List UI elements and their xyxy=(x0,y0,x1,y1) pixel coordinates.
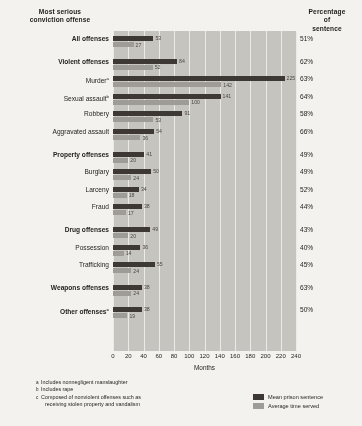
x-axis-tick: 180 xyxy=(245,353,255,359)
bar-row: 5524 xyxy=(113,262,296,275)
category-label-text: Weapons offenses xyxy=(51,284,109,291)
category-label: Trafficking xyxy=(4,261,109,268)
bar-value-label: 41 xyxy=(146,152,152,157)
bar-value-label: 24 xyxy=(133,291,139,296)
category-label-text: Trafficking xyxy=(79,261,109,268)
bar-row: 5327 xyxy=(113,36,296,49)
footnote-text-continued: receiving stolen property and vandalism xyxy=(36,401,231,408)
category-label: Possession xyxy=(4,244,109,251)
percentage-value: 66% xyxy=(300,128,340,135)
bar-value-label: 84 xyxy=(179,59,185,64)
footnote-marker: a xyxy=(36,379,39,386)
bar-average-time-served xyxy=(113,268,131,273)
bar-mean-prison-sentence xyxy=(113,187,139,192)
category-label-text: Robbery xyxy=(84,110,109,117)
legend-item: Average time served xyxy=(253,402,358,411)
footnotes: aIncludes nonnegligent manslaughterbIncl… xyxy=(36,379,231,409)
x-axis-tick: 100 xyxy=(184,353,194,359)
bar-mean-prison-sentence xyxy=(113,169,151,174)
bar-row: 4920 xyxy=(113,227,296,240)
legend-item: Mean prison sentence xyxy=(253,393,358,402)
bar-value-label: 14 xyxy=(126,251,132,256)
gridline xyxy=(296,31,297,351)
bar-row: 3817 xyxy=(113,204,296,217)
category-label-text: Aggravated assault xyxy=(53,128,109,135)
bar-value-label: 24 xyxy=(133,176,139,181)
bar-mean-prison-sentence xyxy=(113,36,153,41)
bar-row: 9153 xyxy=(113,111,296,124)
category-label: Burglary xyxy=(4,168,109,175)
category-label: Fraud xyxy=(4,203,109,210)
bar-mean-prison-sentence xyxy=(113,204,142,209)
percentage-value: 63% xyxy=(300,284,340,291)
category-label-text: All offenses xyxy=(72,35,109,42)
bar-value-label: 36 xyxy=(142,136,148,141)
bar-value-label: 49 xyxy=(152,227,158,232)
bar-value-label: 52 xyxy=(155,65,161,70)
percentage-value: 64% xyxy=(300,93,340,100)
bar-mean-prison-sentence xyxy=(113,245,140,250)
footnote-text: Includes nonnegligent manslaughter xyxy=(41,379,128,385)
category-label: Other offensesc xyxy=(4,306,109,315)
bar-value-label: 54 xyxy=(156,129,162,134)
bar-average-time-served xyxy=(113,100,189,105)
category-label-text: Sexual assault xyxy=(64,95,107,102)
category-label: Larceny xyxy=(4,186,109,193)
bar-row: 5436 xyxy=(113,129,296,142)
bar-row: 3418 xyxy=(113,187,296,200)
bar-value-label: 27 xyxy=(136,43,142,48)
bar-value-label: 53 xyxy=(155,36,161,41)
bar-rows: 5327845222514214110091535436412050243418… xyxy=(113,31,296,351)
legend-label: Average time served xyxy=(268,402,319,410)
footnote-text: Composed of nonviolent offenses such as xyxy=(41,394,141,400)
x-axis-tick: 20 xyxy=(125,353,132,359)
x-axis-label: Months xyxy=(113,364,296,371)
bar-value-label: 91 xyxy=(184,111,190,116)
category-label-text: Burglary xyxy=(84,168,109,175)
bar-value-label: 100 xyxy=(191,100,200,105)
bar-average-time-served xyxy=(113,82,221,87)
legend-swatch xyxy=(253,394,264,400)
percentage-value: 44% xyxy=(300,203,340,210)
bar-average-time-served xyxy=(113,193,127,198)
x-axis: 020406080100120140160180200220240 xyxy=(113,351,296,363)
bar-average-time-served xyxy=(113,175,131,180)
bar-value-label: 225 xyxy=(287,76,296,81)
bar-average-time-served xyxy=(113,291,131,296)
chart-page: Most seriousconviction offense Percentag… xyxy=(0,0,362,426)
bar-row: 5024 xyxy=(113,169,296,182)
bar-value-label: 38 xyxy=(144,285,150,290)
category-label-text: Property offenses xyxy=(53,151,109,158)
bar-value-label: 20 xyxy=(130,234,136,239)
bar-average-time-served xyxy=(113,42,134,47)
bar-value-label: 142 xyxy=(223,83,232,88)
bar-row: 4120 xyxy=(113,152,296,165)
bar-mean-prison-sentence xyxy=(113,76,285,81)
footnote: bIncludes rape xyxy=(36,386,231,393)
percentage-value: 50% xyxy=(300,306,340,313)
bar-value-label: 18 xyxy=(129,193,135,198)
x-axis-tick: 40 xyxy=(140,353,147,359)
bar-mean-prison-sentence xyxy=(113,262,155,267)
bar-mean-prison-sentence xyxy=(113,307,142,312)
footnote-marker: c xyxy=(107,307,109,312)
bar-value-label: 19 xyxy=(129,314,135,319)
footnote-marker: b xyxy=(36,386,39,393)
percentage-value: 58% xyxy=(300,110,340,117)
bar-value-label: 36 xyxy=(142,245,148,250)
x-axis-tick: 80 xyxy=(171,353,178,359)
bar-average-time-served xyxy=(113,135,140,140)
percentage-value: 52% xyxy=(300,186,340,193)
bar-row: 141100 xyxy=(113,94,296,107)
category-label-text: Murder xyxy=(86,77,107,84)
x-axis-tick: 60 xyxy=(155,353,162,359)
category-label: Sexual assaultb xyxy=(4,93,109,102)
category-label-text: Larceny xyxy=(86,186,109,193)
category-label: Weapons offenses xyxy=(4,284,109,291)
percentage-value: 51% xyxy=(300,35,340,42)
legend-label: Mean prison sentence xyxy=(268,393,323,401)
bar-value-label: 34 xyxy=(141,187,147,192)
percentage-value: 43% xyxy=(300,226,340,233)
bar-mean-prison-sentence xyxy=(113,94,221,99)
bar-row: 3614 xyxy=(113,245,296,258)
